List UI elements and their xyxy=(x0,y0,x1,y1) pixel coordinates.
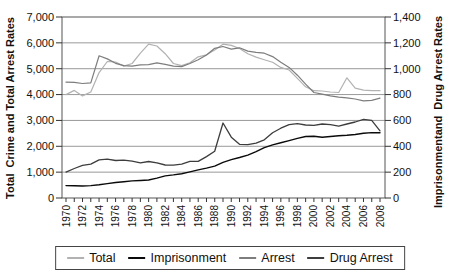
x-tick-label: 1990 xyxy=(226,205,237,228)
legend-item-total: Total xyxy=(67,251,115,265)
left-tick-label: 0 xyxy=(48,192,54,204)
left-tick-label: 7,000 xyxy=(26,11,54,23)
left-tick-label: 1,000 xyxy=(26,166,54,178)
right-tick-label: 1,400 xyxy=(393,11,421,23)
left-tick-label: 6,000 xyxy=(26,37,54,49)
left-tick-label: 4,000 xyxy=(26,88,54,100)
right-tick-label: 1,200 xyxy=(393,37,421,49)
x-tick-label: 2004 xyxy=(341,205,352,228)
legend-item-imprisonment: Imprisonment xyxy=(129,251,227,265)
x-axis-ticks: 1970197219741976197819801982198419861988… xyxy=(61,198,386,227)
x-tick-label: 1978 xyxy=(127,205,138,228)
x-tick-label: 1994 xyxy=(259,205,270,228)
x-tick-label: 1992 xyxy=(242,205,253,228)
x-tick-label: 2000 xyxy=(308,205,319,228)
legend-item-arrest: Arrest xyxy=(239,251,294,265)
right-tick-label: 400 xyxy=(393,140,411,152)
series-line-drug-arrest xyxy=(66,119,380,172)
chart-canvas: 01,0002,0003,0004,0005,0006,0007,0000200… xyxy=(0,0,450,279)
x-tick-label: 1996 xyxy=(275,205,286,228)
x-tick-label: 1980 xyxy=(143,205,154,228)
legend-label-total: Total xyxy=(89,251,115,265)
right-tick-label: 600 xyxy=(393,114,411,126)
left-axis-title: Total Crime and Total Arrest Rates xyxy=(4,17,16,199)
right-tick-label: 200 xyxy=(393,166,411,178)
x-tick-label: 1972 xyxy=(77,205,88,228)
legend: Total Imprisonment Arrest Drug Arrest xyxy=(55,246,405,270)
right-tick-label: 1,000 xyxy=(393,63,421,75)
left-tick-label: 5,000 xyxy=(26,63,54,75)
left-axis-ticks: 01,0002,0003,0004,0005,0006,0007,000 xyxy=(26,11,62,204)
x-tick-label: 1970 xyxy=(61,205,72,228)
total-line-swatch xyxy=(67,257,84,259)
left-tick-label: 3,000 xyxy=(26,114,54,126)
series-line-total xyxy=(66,44,380,96)
x-tick-label: 1976 xyxy=(110,205,121,228)
legend-item-drug-arrest: Drug Arrest xyxy=(308,251,393,265)
left-tick-label: 2,000 xyxy=(26,140,54,152)
drug-arrest-line-swatch xyxy=(308,257,325,259)
right-axis-title: Imprisonmentand Drug Arrest Rates xyxy=(432,16,444,208)
right-tick-label: 800 xyxy=(393,88,411,100)
x-tick-label: 1988 xyxy=(209,205,220,228)
x-tick-label: 1982 xyxy=(160,205,171,228)
legend-label-imprisonment: Imprisonment xyxy=(151,251,227,265)
x-tick-label: 1986 xyxy=(193,205,204,228)
x-tick-label: 1974 xyxy=(94,205,105,228)
chart-figure: 01,0002,0003,0004,0005,0006,0007,0000200… xyxy=(0,0,450,279)
series-line-imprisonment xyxy=(66,133,380,186)
legend-label-arrest: Arrest xyxy=(261,251,294,265)
legend-label-drug-arrest: Drug Arrest xyxy=(330,251,393,265)
x-tick-label: 2002 xyxy=(325,205,336,228)
x-tick-label: 1998 xyxy=(292,205,303,228)
imprisonment-line-swatch xyxy=(129,257,146,259)
right-tick-label: 0 xyxy=(393,192,399,204)
x-tick-label: 2006 xyxy=(358,205,369,228)
x-tick-label: 2008 xyxy=(375,205,386,228)
x-tick-label: 1984 xyxy=(176,205,187,228)
right-axis-ticks: 02004006008001,0001,2001,400 xyxy=(385,11,421,204)
arrest-line-swatch xyxy=(239,257,256,259)
